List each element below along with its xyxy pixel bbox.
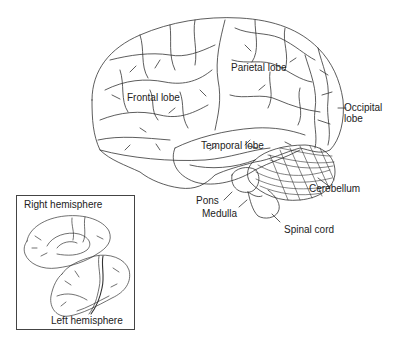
left-hemisphere-label: Left hemisphere [51, 315, 123, 326]
hemispheres-inset: Right hemisphere Left hemisphere [16, 195, 135, 330]
temporal-lobe-label: Temporal lobe [201, 140, 264, 151]
hemispheres-illustration [17, 196, 136, 331]
occipital-lobe-label-line2: lobe [344, 113, 363, 124]
frontal-lobe-label: Frontal lobe [127, 92, 180, 103]
pons-label: Pons [196, 195, 219, 206]
brain-diagram: Frontal lobe Parietal lobe Occipital lob… [0, 0, 400, 347]
cerebellum-label: Cerebellum [309, 183, 360, 194]
medulla-label: Medulla [202, 208, 237, 219]
occipital-lobe-label-line1: Occipital [344, 102, 382, 113]
spinal-cord-label: Spinal cord [284, 224, 334, 235]
parietal-lobe-label: Parietal lobe [231, 62, 287, 73]
